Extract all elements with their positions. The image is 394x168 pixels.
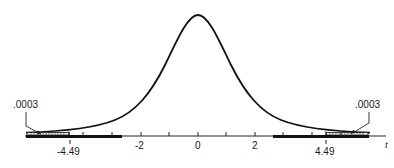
tick-label-neg2: -2	[135, 140, 144, 151]
right-tail-bar	[273, 135, 369, 138]
left-tail-bar	[26, 135, 122, 138]
right-tail-area-label: .0003	[355, 99, 380, 110]
density-curve	[26, 15, 370, 133]
x-axis-label: t	[385, 139, 388, 150]
left-tail-area-label: .0003	[13, 99, 38, 110]
right-critical-label: 4.49	[315, 146, 335, 157]
left-leader-line	[26, 112, 41, 134]
t-distribution-chart: .0003 .0003 -4.49 4.49 -2 0 2 t	[0, 0, 394, 168]
tick-label-2: 2	[252, 140, 258, 151]
tick-label-0: 0	[195, 140, 201, 151]
left-critical-label: -4.49	[57, 146, 80, 157]
